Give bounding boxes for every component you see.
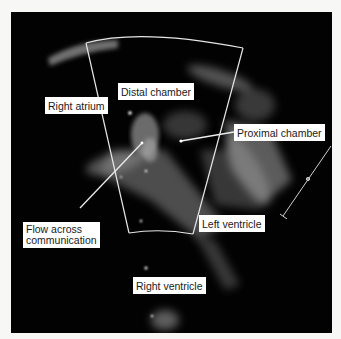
- label-flow-across-communication: Flow across communication: [23, 222, 100, 248]
- label-right-atrium: Right atrium: [45, 97, 108, 114]
- label-proximal-chamber: Proximal chamber: [234, 124, 325, 141]
- label-left-ventricle: Left ventricle: [199, 215, 265, 232]
- label-flow-line2: communication: [26, 235, 97, 246]
- label-right-ventricle: Right ventricle: [133, 277, 206, 294]
- label-distal-chamber: Distal chamber: [118, 83, 194, 100]
